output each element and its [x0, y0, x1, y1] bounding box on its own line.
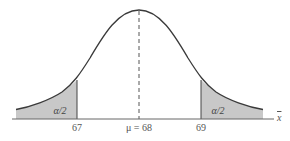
right-tail-label: α/2 — [211, 105, 224, 116]
tick-label-67: 67 — [72, 122, 82, 133]
axis-label-text: x — [277, 112, 281, 123]
axis-label-xbar: x — [277, 112, 281, 123]
normal-curve-diagram — [0, 0, 290, 141]
tick-label-69: 69 — [196, 122, 206, 133]
right-tail-area — [201, 80, 263, 119]
tick-label-mean: μ = 68 — [126, 122, 152, 133]
bell-curve — [16, 10, 263, 110]
left-tail-label: α/2 — [53, 105, 66, 116]
